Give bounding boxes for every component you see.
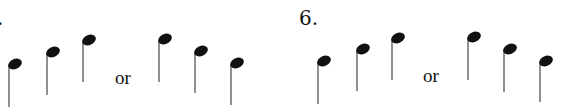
- quarter-note-icon: [192, 43, 209, 93]
- quarter-note-icon: [537, 53, 554, 102]
- quarter-note-icon: [501, 41, 518, 92]
- quarter-note-icon: [228, 55, 245, 105]
- quarter-note-icon: [156, 31, 173, 82]
- quarter-note-icon: [354, 41, 371, 91]
- quarter-note-icon: [6, 56, 23, 107]
- quarter-note-icon: [465, 29, 482, 80]
- quarter-note-icon: [389, 30, 406, 80]
- quarter-note-icon: [80, 32, 97, 82]
- quarter-note-icon: [315, 53, 332, 104]
- quarter-note-icon: [44, 44, 61, 95]
- music-notes: [0, 0, 568, 109]
